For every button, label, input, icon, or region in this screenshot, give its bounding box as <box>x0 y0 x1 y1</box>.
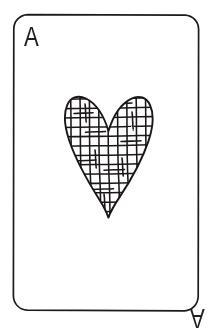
playing-card-scene: A A <box>0 0 215 328</box>
rank-bottom-right: A <box>190 304 205 328</box>
rank-top-left: A <box>24 24 39 51</box>
